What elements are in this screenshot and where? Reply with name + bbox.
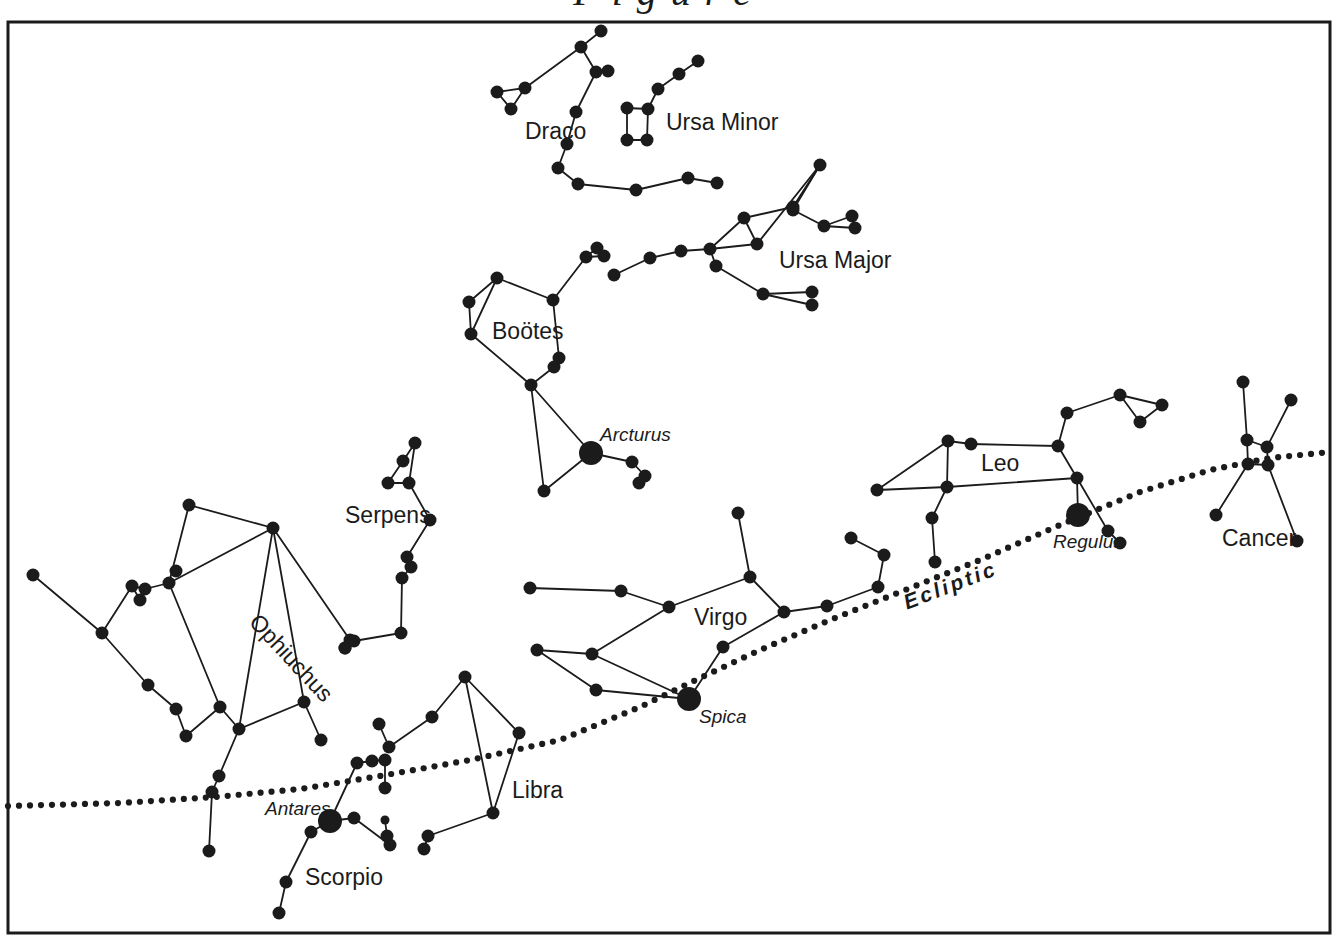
ecliptic-dot [781,637,787,643]
constellation-line [1067,395,1120,413]
constellation-line [102,586,132,633]
constellation-label: Virgo [694,604,747,630]
star-dot [1156,399,1169,412]
star-dot [463,296,476,309]
star-dot [682,172,695,185]
ecliptic-dot [431,763,437,769]
star-dot [757,288,770,301]
ecliptic-dot [731,659,737,665]
ecliptic-dot [611,715,617,721]
ecliptic-dot [93,801,99,807]
ecliptic-dot [257,790,263,796]
star-dot [426,711,439,724]
constellation-line [710,244,757,249]
star-dot [538,485,551,498]
ecliptic-dot [126,799,132,805]
star-dot [663,601,676,614]
ecliptic-dot [1210,466,1216,472]
star-dot [1285,394,1298,407]
star-dot [806,286,819,299]
ecliptic-dot [1096,506,1102,512]
constellation-line [389,717,432,747]
star-dot [96,627,109,640]
ecliptic-dot [170,797,176,803]
ecliptic-dot [485,753,491,759]
star-dot [395,627,408,640]
constellation-line [669,577,750,607]
ecliptic-dot [16,803,22,809]
constellation-line [784,606,827,612]
ecliptic-dot [115,800,121,806]
ecliptic-dot [60,801,66,807]
ecliptic-dot [1179,476,1185,482]
constellation-label: Scorpio [305,864,383,890]
star-dot [621,134,634,147]
ecliptic-dot [642,702,648,708]
ecliptic-dot [1232,462,1238,468]
star-dot [744,571,757,584]
ecliptic-dot [711,668,717,674]
star-dot [929,556,942,569]
star-dot [598,250,611,263]
star-dot [547,294,560,307]
star-dot [418,843,431,856]
star-dot [644,252,657,265]
ecliptic-dot [464,757,470,763]
star-dot [384,839,397,852]
star-dot [677,687,701,711]
star-dot [575,41,588,54]
star-dot [572,178,585,191]
constellation-line [1216,464,1248,515]
star-dot [818,220,831,233]
constellation-line [497,278,553,300]
ecliptic-dot [1319,450,1325,456]
named-star-label: Spica [699,706,747,727]
star-dot [586,648,599,661]
ecliptic-dot [71,801,77,807]
ecliptic-dot [1137,489,1143,495]
star-dot [1071,472,1084,485]
constellation-line [186,707,220,736]
star-dot [1052,440,1065,453]
ecliptic-dot [571,731,577,737]
ecliptic-dot [842,611,848,617]
star-dot [872,581,885,594]
star-dot [675,245,688,258]
star-dot [126,580,139,593]
constellation-line [636,178,688,190]
constellation-line [33,575,102,633]
star-dot [206,786,219,799]
ecliptic-dot [691,678,697,684]
ecliptic-dot [421,765,427,771]
ecliptic-dot [442,761,448,767]
star-dot [1061,407,1074,420]
constellation-line [763,292,812,294]
star-dot [525,379,538,392]
star-dot [379,754,392,767]
constellation-line [169,583,220,707]
ecliptic-dot [475,755,481,761]
ecliptic-dot [192,795,198,801]
ecliptic-dot [1035,531,1041,537]
star-dot [630,184,643,197]
ecliptic-dot [1200,469,1206,475]
ecliptic-dot [751,650,757,656]
ecliptic-dot [528,743,534,749]
constellation-label: Ursa Minor [666,109,779,135]
ecliptic-dot [1297,452,1303,458]
constellation-line [465,677,519,733]
ecliptic-dot [1147,486,1153,492]
star-dot [267,522,280,535]
star-dot [878,549,891,562]
ecliptic-dot [410,767,416,773]
ecliptic-dot [671,687,677,693]
ecliptic-dot [661,692,667,698]
ecliptic-dot [621,710,627,716]
star-dot [738,212,751,225]
star-dot [641,134,654,147]
ecliptic-dot [1116,497,1122,503]
constellation-line [465,677,493,813]
star-dot [459,671,472,684]
ecliptic-dot [791,632,797,638]
constellation-label: Cancer [1222,525,1296,551]
